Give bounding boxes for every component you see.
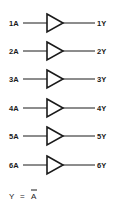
buffer-gate-icon [47,156,63,174]
input-label: 5A [9,132,19,141]
gate-row: 5A5Y [9,127,106,145]
buffer-gate-icon [47,14,63,32]
equation-operator: = [20,192,25,201]
gate-row: 1A1Y [9,14,106,32]
gate-row: 6A6Y [9,156,106,174]
input-label: 4A [9,104,19,113]
input-label: 3A [9,75,19,84]
output-label: 4Y [97,104,106,113]
gate-row: 2A2Y [9,42,106,60]
output-label: 1Y [97,19,106,28]
output-label: 3Y [97,75,106,84]
gate-row: 4A4Y [9,99,106,117]
output-label: 5Y [97,132,106,141]
output-label: 6Y [97,161,106,170]
input-label: 2A [9,47,19,56]
equation-lhs: Y [9,192,15,201]
equation-rhs: A [31,192,37,201]
buffer-gate-icon [47,127,63,145]
output-label: 2Y [97,47,106,56]
input-label: 1A [9,19,19,28]
buffer-gate-icon [47,42,63,60]
gate-row: 3A3Y [9,70,106,88]
logic-diagram: 1A1Y2A2Y3A3Y4A4Y5A5Y6A6Y Y = A [0,0,114,206]
input-label: 6A [9,161,19,170]
logic-equation: Y = A [9,190,37,201]
buffer-gate-icon [47,99,63,117]
buffer-gate-icon [47,70,63,88]
